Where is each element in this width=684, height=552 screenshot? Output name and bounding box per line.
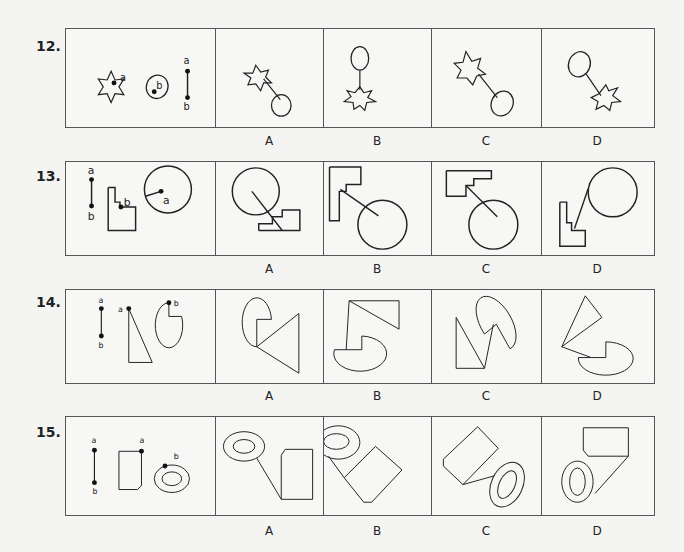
label-a: a (118, 305, 123, 314)
question-15-given: a b a b (66, 417, 216, 515)
question-14-given: a b a b (66, 290, 216, 383)
option-label-c: C (482, 389, 490, 403)
label-a: a (92, 436, 97, 445)
ellipse-icon (565, 49, 594, 80)
question-12-row: a b a b (65, 28, 655, 128)
triangle-shape (257, 313, 299, 373)
question-15-row: a b a b (65, 416, 655, 516)
label-b: b (184, 101, 190, 112)
ring-inner-shape (162, 472, 182, 486)
question-12-option-d[interactable] (542, 29, 654, 127)
question-15-option-b[interactable] (324, 417, 432, 515)
label-a: a (184, 55, 190, 66)
pacman-shape (476, 296, 516, 348)
ring-inner-shape (324, 434, 349, 450)
question-number-13: 13. (36, 168, 61, 184)
question-13-row: a b b a (65, 161, 655, 256)
triangle-shape (349, 301, 399, 329)
given-figures: a b a b (66, 29, 215, 127)
label-b: b (174, 452, 179, 461)
circle-shape (469, 200, 518, 249)
label-b: b (174, 299, 179, 308)
pentagon-shape (443, 427, 498, 485)
label-b: b (156, 80, 162, 91)
question-15-option-c[interactable] (432, 417, 542, 515)
option-label-d: D (592, 524, 601, 538)
question-14-option-a[interactable] (216, 290, 324, 383)
label-b: b (92, 487, 97, 496)
label-b: b (98, 341, 103, 350)
ring-inner-shape (570, 468, 586, 495)
label-a: a (120, 72, 126, 83)
star-icon (344, 87, 375, 111)
triangle-shape (562, 296, 602, 347)
circle-shape (588, 168, 637, 217)
ring-outer-shape (154, 465, 189, 492)
question-12-option-b[interactable] (324, 29, 432, 127)
question-12-option-c[interactable] (432, 29, 542, 127)
pacman-shape (334, 336, 387, 371)
label-a: a (98, 296, 103, 305)
question-12-option-a[interactable] (216, 29, 324, 127)
question-14-option-b[interactable] (324, 290, 432, 383)
option-label-d: D (592, 262, 601, 276)
label-a: a (163, 194, 170, 207)
option-label-c: C (482, 524, 490, 538)
pentagon-shape (583, 428, 628, 456)
ring-inner-shape (494, 468, 521, 501)
option-label-d: D (592, 134, 601, 148)
label-b: b (88, 210, 95, 223)
question-13-option-b[interactable] (324, 162, 432, 255)
question-13-option-c[interactable] (432, 162, 542, 255)
question-14-option-c[interactable] (432, 290, 542, 383)
ellipse-icon (487, 87, 517, 119)
option-label-a: A (265, 524, 273, 538)
circle-shape (232, 168, 279, 215)
question-14-option-d[interactable] (542, 290, 654, 383)
question-12-given: a b a b (66, 29, 216, 127)
option-label-c: C (482, 262, 490, 276)
option-label-b: B (373, 524, 381, 538)
ellipse-icon (271, 95, 291, 117)
pacman-shape (242, 298, 271, 347)
label-a: a (140, 436, 145, 445)
ellipse-icon (351, 47, 369, 71)
ring-outer-shape (483, 457, 531, 513)
question-13-option-d[interactable] (542, 162, 654, 255)
pentagon-shape (119, 451, 142, 489)
ring-inner-shape (233, 440, 255, 454)
star-icon (244, 65, 271, 90)
question-number-14: 14. (36, 294, 61, 310)
question-15-option-d[interactable] (542, 417, 654, 515)
ring-outer-shape (223, 432, 264, 461)
circle-shape (358, 200, 407, 249)
ring-outer-shape (562, 461, 593, 502)
staircase-shape (330, 167, 361, 221)
question-number-12: 12. (36, 38, 61, 54)
question-15-option-a[interactable] (216, 417, 324, 515)
label-b: b (124, 196, 131, 209)
ring-outer-shape (324, 426, 360, 459)
option-label-b: B (373, 134, 381, 148)
option-label-a: A (265, 134, 273, 148)
pacman-shape (155, 303, 182, 348)
triangle-shape (456, 317, 484, 368)
pacman-shape (578, 342, 633, 375)
option-label-a: A (265, 262, 273, 276)
option-label-b: B (373, 389, 381, 403)
star-icon (454, 52, 485, 85)
question-number-15: 15. (36, 424, 61, 440)
option-label-d: D (592, 389, 601, 403)
triangle-shape (129, 309, 152, 363)
question-13-given: a b b a (66, 162, 216, 255)
option-label-a: A (265, 389, 273, 403)
staircase-shape (446, 171, 491, 196)
question-13-option-a[interactable] (216, 162, 324, 255)
label-a: a (88, 164, 95, 177)
option-label-c: C (482, 134, 490, 148)
question-14-row: a b a b (65, 289, 655, 384)
option-label-b: B (373, 262, 381, 276)
pentagon-shape (281, 449, 312, 499)
